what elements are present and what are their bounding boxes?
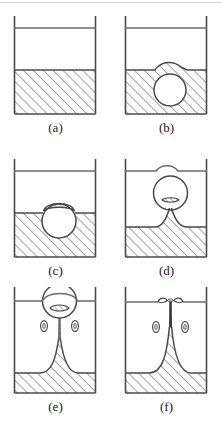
panel-e-diagram bbox=[0, 287, 111, 407]
liquid-body-a bbox=[14, 70, 96, 114]
panel-f-diagram bbox=[111, 287, 222, 407]
droplet-right-f bbox=[182, 322, 189, 333]
bubble-d bbox=[154, 176, 188, 210]
panel-c-diagram bbox=[0, 151, 111, 271]
panel-e-caption: (e) bbox=[0, 399, 111, 414]
liquid-body-c bbox=[14, 204, 96, 257]
figure-root: (a) bbox=[0, 0, 222, 427]
top-divider-rule bbox=[0, 2, 222, 3]
droplet-right-e bbox=[72, 321, 79, 332]
panel-b-diagram bbox=[111, 8, 222, 128]
bubble-e bbox=[43, 287, 77, 318]
liquid-body-d bbox=[125, 208, 207, 257]
panel-a-caption: (a) bbox=[0, 120, 111, 135]
splash-lobes-f bbox=[158, 298, 183, 302]
panel-d-caption: (d) bbox=[111, 263, 222, 278]
panel-c: (c) bbox=[0, 151, 111, 293]
droplet-left-f bbox=[153, 322, 160, 333]
panel-a-diagram bbox=[0, 8, 111, 128]
panel-e: (e) bbox=[0, 287, 111, 427]
upper-reference-line-d bbox=[125, 166, 207, 171]
liquid-body-e bbox=[14, 339, 96, 393]
panel-d: (d) bbox=[111, 151, 222, 293]
panel-a: (a) bbox=[0, 8, 111, 150]
jet-column-f bbox=[169, 302, 171, 327]
panel-f-caption: (f) bbox=[111, 399, 222, 414]
panel-b: (b) bbox=[111, 8, 222, 150]
panel-d-diagram bbox=[111, 151, 222, 271]
droplet-left-e bbox=[41, 321, 48, 332]
panel-b-caption: (b) bbox=[111, 120, 222, 135]
panel-c-caption: (c) bbox=[0, 263, 111, 278]
panel-f: (f) bbox=[111, 287, 222, 427]
liquid-body-f bbox=[125, 327, 207, 393]
